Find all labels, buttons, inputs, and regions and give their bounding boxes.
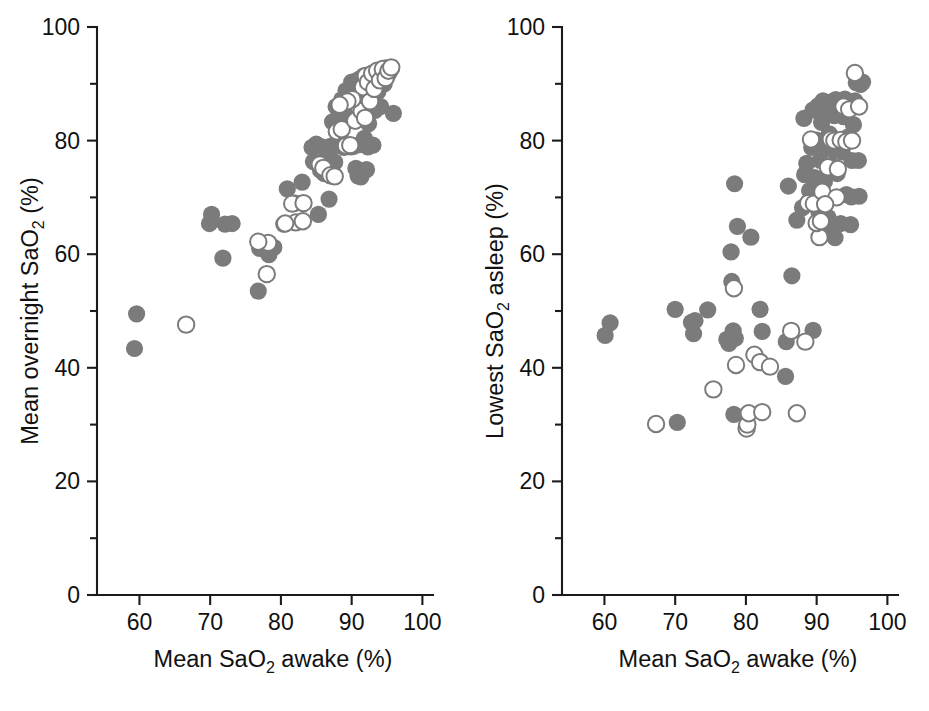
- data-point-filled: [352, 168, 369, 185]
- data-point-filled: [742, 229, 759, 246]
- chart-panel-right: 02040608010060708090100Mean SaO2 awake (…: [465, 0, 929, 711]
- data-point-open: [277, 215, 293, 231]
- scatter-plot-right: 02040608010060708090100Mean SaO2 awake (…: [465, 0, 929, 711]
- data-point-filled: [850, 152, 867, 169]
- data-point-open: [331, 97, 347, 113]
- y-tick-label: 80: [54, 128, 80, 154]
- y-axis-title: Lowest SaO2 asleep (%): [482, 183, 512, 439]
- data-point-open: [847, 65, 863, 81]
- data-point-filled: [669, 414, 686, 431]
- data-point-open: [705, 381, 721, 397]
- y-tick-label: 100: [42, 14, 80, 40]
- data-point-filled: [602, 314, 619, 331]
- data-point-open: [851, 98, 867, 114]
- x-tick-label: 80: [268, 609, 294, 635]
- data-point-filled: [777, 368, 794, 385]
- y-tick-label: 20: [54, 468, 80, 494]
- data-point-open: [648, 416, 664, 432]
- data-point-filled: [722, 243, 739, 260]
- data-point-open: [295, 195, 311, 211]
- data-point-filled: [214, 250, 231, 267]
- data-point-filled: [667, 301, 684, 318]
- data-point-filled: [313, 138, 330, 155]
- data-point-open: [797, 333, 813, 349]
- figure-container: 02040608010060708090100Mean SaO2 awake (…: [0, 0, 929, 711]
- y-tick-label: 0: [532, 582, 545, 608]
- data-points-group: [597, 65, 872, 437]
- y-tick-label: 0: [67, 582, 80, 608]
- data-point-open: [250, 234, 266, 250]
- data-point-filled: [751, 301, 768, 318]
- data-point-open: [259, 266, 275, 282]
- data-point-filled: [699, 301, 716, 318]
- chart-panel-left: 02040608010060708090100Mean SaO2 awake (…: [0, 0, 464, 711]
- data-point-filled: [310, 206, 327, 223]
- data-point-filled: [128, 305, 145, 322]
- x-tick-label: 80: [733, 609, 759, 635]
- y-tick-label: 40: [54, 355, 80, 381]
- data-point-filled: [320, 191, 337, 208]
- data-point-open: [803, 131, 819, 147]
- data-point-filled: [224, 215, 241, 232]
- data-points-group: [126, 59, 402, 357]
- data-point-open: [295, 213, 311, 229]
- x-tick-label: 100: [868, 609, 906, 635]
- data-point-filled: [754, 323, 771, 340]
- data-point-filled: [126, 340, 143, 357]
- data-point-filled: [294, 173, 311, 190]
- data-point-open: [357, 110, 373, 126]
- data-point-open: [762, 358, 778, 374]
- data-point-filled: [250, 283, 267, 300]
- data-point-open: [383, 59, 399, 75]
- x-tick-label: 70: [197, 609, 223, 635]
- data-point-open: [830, 161, 846, 177]
- data-point-open: [844, 132, 860, 148]
- y-tick-label: 60: [519, 241, 545, 267]
- data-point-open: [342, 137, 358, 153]
- data-point-filled: [385, 105, 402, 122]
- data-point-open: [326, 168, 342, 184]
- data-point-filled: [780, 177, 797, 194]
- x-tick-label: 60: [592, 609, 618, 635]
- x-tick-label: 70: [662, 609, 688, 635]
- x-tick-label: 90: [339, 609, 365, 635]
- y-tick-label: 80: [519, 128, 545, 154]
- x-axis-title: Mean SaO2 awake (%): [619, 646, 858, 676]
- x-tick-label: 60: [127, 609, 153, 635]
- x-axis-title: Mean SaO2 awake (%): [154, 646, 393, 676]
- data-point-filled: [727, 330, 744, 347]
- data-point-open: [817, 196, 833, 212]
- data-point-filled: [685, 325, 702, 342]
- data-point-open: [783, 323, 799, 339]
- data-point-filled: [726, 175, 743, 192]
- data-point-open: [789, 405, 805, 421]
- y-tick-label: 100: [507, 14, 545, 40]
- data-point-open: [813, 213, 829, 229]
- data-point-filled: [359, 138, 376, 155]
- data-point-filled: [842, 216, 859, 233]
- series-open: [178, 59, 400, 333]
- scatter-plot-left: 02040608010060708090100Mean SaO2 awake (…: [0, 0, 464, 711]
- x-tick-label: 90: [804, 609, 830, 635]
- y-tick-label: 40: [519, 355, 545, 381]
- data-point-open: [754, 404, 770, 420]
- y-axis-title: Mean overnight SaO2 (%): [17, 177, 47, 445]
- data-point-filled: [729, 218, 746, 235]
- y-tick-label: 20: [519, 468, 545, 494]
- data-point-filled: [845, 116, 862, 133]
- data-point-filled: [783, 267, 800, 284]
- series-filled: [597, 74, 872, 431]
- y-tick-label: 60: [54, 241, 80, 267]
- data-point-open: [728, 357, 744, 373]
- data-point-open: [726, 280, 742, 296]
- data-point-open: [178, 316, 194, 332]
- x-tick-label: 100: [403, 609, 441, 635]
